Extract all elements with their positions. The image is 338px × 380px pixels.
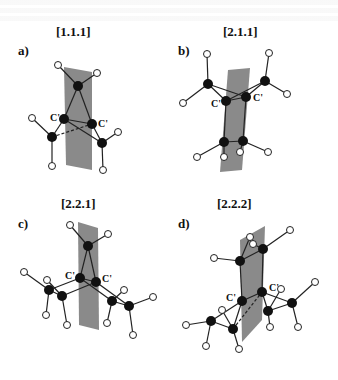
cprime-label-a-left: C': [50, 112, 60, 123]
cprime-label-a-right: C': [98, 118, 108, 129]
cprime-label-b-left: C': [211, 98, 221, 109]
cprime-label-c-right: C': [102, 273, 112, 284]
molecule-b: C' C': [180, 50, 291, 173]
molecule-a: C' C': [29, 62, 122, 174]
molecule-c: C' C': [21, 222, 157, 339]
cprime-label-b-right: C': [253, 92, 263, 103]
cprime-label-d-left: C': [226, 292, 236, 303]
molecule-d: C' C': [183, 226, 319, 353]
cprime-label-d-right: C': [269, 282, 279, 293]
molecule-diagrams: C' C' C' C': [0, 0, 338, 380]
cprime-label-c-left: C': [65, 270, 75, 281]
